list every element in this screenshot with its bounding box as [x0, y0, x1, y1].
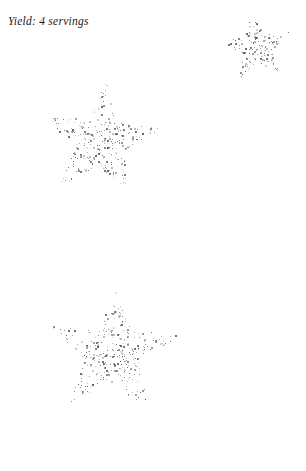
stipple-dot	[259, 45, 260, 46]
stipple-dot	[277, 68, 278, 69]
stipple-dot	[105, 355, 107, 357]
stipple-dot	[120, 325, 121, 326]
stipple-dot	[117, 334, 119, 336]
stipple-dot	[117, 128, 118, 129]
stipple-dot	[93, 138, 95, 140]
stipple-dot	[91, 168, 92, 169]
stipple-dot	[118, 374, 119, 375]
stipple-dot	[256, 37, 258, 39]
stipple-dot	[155, 340, 157, 342]
stipple-dot	[239, 45, 240, 46]
stipple-dot	[118, 131, 119, 132]
stipple-dot	[272, 42, 273, 43]
stipple-dot	[77, 344, 78, 345]
stipple-dot	[254, 36, 256, 38]
stipple-dot	[249, 32, 250, 33]
stipple-dot	[143, 353, 144, 354]
stipple-dot	[109, 122, 111, 124]
stipple-dot	[132, 141, 133, 142]
stipple-dot	[109, 131, 111, 133]
stipple-dot	[128, 133, 129, 134]
stipple-dot	[142, 133, 144, 135]
stipple-dot	[111, 164, 112, 165]
stipple-dot	[80, 134, 81, 135]
stipple-dot	[73, 156, 74, 157]
stipple-dot	[89, 392, 90, 393]
stipple-dot	[261, 56, 262, 57]
stipple-dot	[121, 369, 122, 370]
stipple-dot	[130, 368, 132, 370]
stipple-dot	[163, 345, 164, 346]
stipple-dot	[89, 354, 90, 355]
stipple-dot	[66, 130, 68, 132]
stipple-dot	[91, 386, 92, 387]
stipple-dot	[108, 374, 110, 376]
stipple-dot	[120, 375, 121, 376]
stipple-dot	[114, 128, 116, 130]
stipple-dot	[71, 131, 73, 133]
stipple-dot	[73, 161, 74, 162]
stipple-dot	[112, 133, 114, 135]
stipple-dot	[85, 170, 87, 172]
stipple-dot	[249, 22, 250, 23]
stipple-dot	[66, 335, 67, 336]
stipple-dot	[246, 33, 248, 35]
stipple-dot	[155, 342, 156, 343]
stipple-dot	[265, 47, 266, 48]
stipple-dot	[71, 401, 72, 402]
stipple-dot	[89, 160, 90, 161]
stipple-dot	[84, 355, 85, 356]
stipple-dot	[119, 140, 120, 141]
stipple-dot	[121, 142, 123, 144]
stipple-dot	[151, 127, 152, 128]
stipple-dot	[104, 147, 106, 149]
stipple-dot	[87, 391, 88, 392]
stipple-dot	[113, 173, 114, 174]
stipple-dot	[273, 64, 274, 65]
stipple-dot	[111, 154, 112, 155]
stipple-dot	[127, 361, 129, 363]
stipple-dot	[260, 53, 261, 54]
stipple-dot	[170, 341, 171, 342]
stipple-dot	[257, 32, 258, 33]
stipple-dot	[267, 61, 268, 62]
stipple-dot	[134, 337, 135, 338]
stipple-dot	[258, 33, 259, 34]
stipple-dot	[235, 43, 237, 45]
stipple-dot	[107, 148, 108, 149]
stipple-dot	[121, 364, 122, 365]
stipple-dot	[117, 159, 118, 160]
stipple-dot	[74, 391, 75, 392]
stipple-dot	[273, 63, 274, 64]
stipple-dot	[264, 53, 265, 54]
stipple-dot	[261, 45, 263, 47]
stipple-dot	[125, 178, 126, 179]
stipple-dot	[75, 135, 76, 136]
stipple-dot	[113, 115, 114, 116]
stipple-dot	[266, 58, 268, 60]
stipple-dot	[111, 167, 113, 169]
stipple-dot	[88, 142, 89, 143]
stipple-dot	[120, 361, 121, 362]
stipple-dot	[151, 332, 152, 333]
stipple-dot	[110, 356, 111, 357]
stipple-dot	[118, 129, 119, 130]
stipple-dot	[124, 371, 125, 372]
stipple-dot	[119, 338, 120, 339]
stipple-dot	[128, 147, 129, 148]
stipple-dot	[273, 62, 274, 63]
stipple-dot	[87, 157, 88, 158]
stipple-dot	[112, 143, 113, 144]
stipple-dot	[242, 74, 243, 75]
stipple-dot	[107, 143, 108, 144]
stipple-dot	[162, 343, 163, 344]
stipple-dot	[241, 40, 242, 41]
stipple-dot	[142, 333, 144, 335]
stipple-dot	[73, 164, 74, 165]
stipple-dot	[103, 377, 104, 378]
stipple-dot	[88, 170, 89, 171]
stipple-dot	[98, 342, 99, 343]
stipple-dot	[109, 147, 110, 148]
stipple-dot	[100, 365, 101, 366]
stipple-dot	[110, 330, 112, 332]
